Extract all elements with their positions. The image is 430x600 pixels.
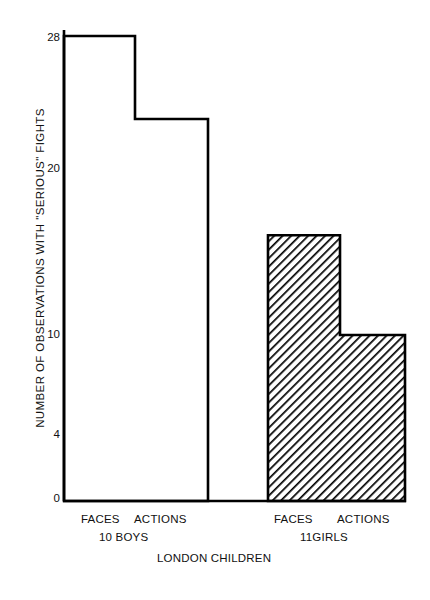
y-tick-label-10: 10: [32, 329, 60, 341]
y-tick-label-28: 28: [32, 32, 60, 44]
y-tick-label-4: 4: [32, 429, 60, 441]
x-axis-title: LONDON CHILDREN: [157, 553, 271, 565]
x-label-girls-faces: FACES: [274, 514, 313, 526]
y-axis-tick-labels: 28 20 10 4 0: [30, 0, 60, 600]
x-group-label-boys: 10 BOYS: [99, 532, 148, 544]
plot-svg: [63, 30, 408, 510]
x-group-label-girls: 11GIRLS: [300, 532, 348, 544]
x-label-girls-actions: ACTIONS: [337, 514, 390, 526]
bar-group-boys: [64, 36, 208, 501]
y-tick-label-0: 0: [32, 493, 60, 505]
x-label-boys-faces: FACES: [81, 514, 120, 526]
plot-area: [63, 30, 408, 502]
x-label-boys-actions: ACTIONS: [134, 514, 187, 526]
bar-chart: NUMBER OF OBSERVATIONS WITH "SERIOUS" FI…: [0, 0, 430, 600]
y-tick-label-20: 20: [32, 163, 60, 175]
bar-group-girls: [268, 235, 405, 501]
